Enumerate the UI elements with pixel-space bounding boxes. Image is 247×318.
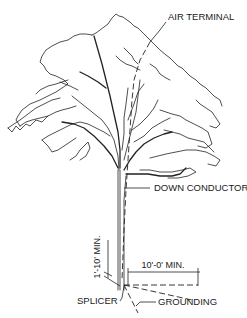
- tree-branches: [60, 36, 186, 176]
- down-conductor-line: [122, 42, 150, 280]
- dimension-horizontal: 10'-0' MIN.: [128, 260, 200, 286]
- down-conductor-label: DOWN CONDUCTOR: [154, 182, 247, 193]
- splicer-label: SPLICER: [77, 295, 118, 306]
- label-splicer: SPLICER: [77, 286, 124, 306]
- label-down-conductor: DOWN CONDUCTOR: [124, 182, 247, 193]
- dimension-vertical: 1'-10' MIN.: [92, 236, 120, 286]
- label-grounding: GROUNDING: [136, 296, 217, 307]
- grounding-label: GROUNDING: [158, 296, 217, 307]
- tree-canopy: [8, 14, 222, 178]
- horizontal-dimension-label: 10'-0' MIN.: [142, 260, 185, 270]
- air-terminal-label: AIR TERMINAL: [168, 11, 234, 22]
- tree-lightning-protection-diagram: 1'-10' MIN. 10'-0' MIN. AIR TERMINAL DOW…: [0, 0, 247, 318]
- label-air-terminal: AIR TERMINAL: [150, 11, 234, 42]
- vertical-dimension-label: 1'-10' MIN.: [92, 236, 102, 279]
